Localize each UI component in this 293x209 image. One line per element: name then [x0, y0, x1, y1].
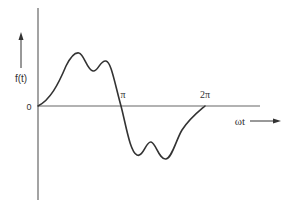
x-axis-arrow-icon [250, 119, 281, 124]
x-axis-label: ωt [235, 115, 245, 127]
waveform-diagram: f(t) 0 π 2π ωt [0, 0, 293, 209]
tick-label-2pi: 2π [200, 89, 210, 100]
y-axis-label: f(t) [15, 73, 27, 84]
y-axis-arrow-icon [19, 32, 24, 68]
origin-label: 0 [26, 102, 31, 112]
tick-label-pi: π [120, 89, 125, 100]
